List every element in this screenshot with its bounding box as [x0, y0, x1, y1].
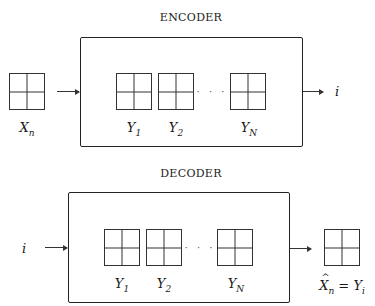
input-block-grid: [9, 73, 45, 110]
encoder-output-index: i: [335, 84, 339, 99]
decoder-codeword-n-grid: [217, 229, 253, 266]
encoder-output-arrow: [303, 91, 323, 92]
decoder-output-arrow: [290, 248, 311, 249]
encoder-input-arrow: [57, 91, 79, 92]
encoder-codeword-n-grid: [230, 73, 266, 110]
decoder-title: DECODER: [160, 167, 222, 180]
encoder-codeword-1-grid: [116, 73, 152, 110]
decoder-codeword-1-label: Y1: [115, 276, 129, 294]
encoder-codeword-2-label: Y2: [169, 120, 183, 138]
output-block-label: Xn = Yi: [319, 278, 365, 296]
decoder-codeword-2-label: Y2: [157, 276, 171, 294]
input-block-label: Xn: [19, 120, 34, 138]
decoder-input-index: i: [22, 241, 26, 256]
decoder-input-arrow: [45, 247, 67, 248]
decoder-codeword-2-grid: [146, 229, 182, 266]
encoder-codeword-n-label: YN: [241, 120, 257, 138]
encoder-codeword-2-grid: [158, 73, 194, 110]
decoder-codeword-n-label: YN: [228, 276, 244, 294]
output-block-grid: [324, 229, 360, 266]
encoder-ellipsis: · · ·: [197, 86, 228, 97]
decoder-codeword-1-grid: [104, 229, 140, 266]
encoder-title: ENCODER: [160, 11, 222, 24]
encoder-codeword-1-label: Y1: [127, 120, 141, 138]
decoder-ellipsis: · · ·: [185, 242, 216, 253]
